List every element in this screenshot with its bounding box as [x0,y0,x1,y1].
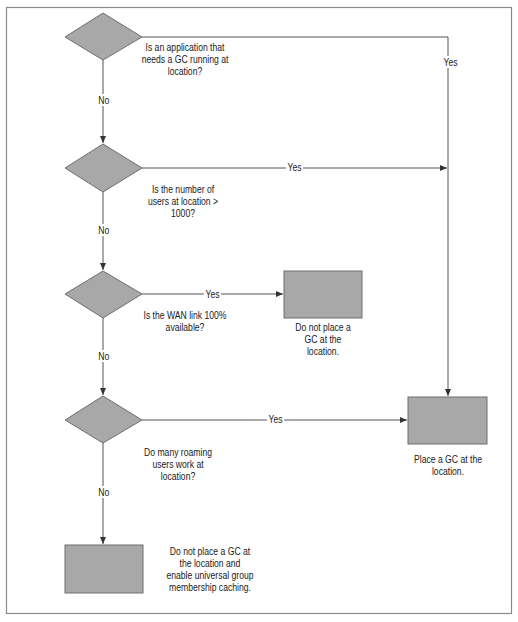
outcome-box-place-gc [408,397,487,444]
question-line: location? [137,470,219,482]
decision-3-question: Is the WAN link 100% available? [140,309,230,333]
question-line: location? [140,65,230,77]
diagram-frame [7,8,512,614]
outcome-no-gc-text: Do not place a GC at the location. [286,321,360,357]
decision-4-no-label: No [97,486,111,498]
outcome-line: the location and [165,557,255,569]
flowchart-canvas [0,0,518,622]
outcome-line: enable universal group [165,569,255,581]
decision-3-no-label: No [97,350,111,362]
outcome-box-caching [65,545,143,593]
outcome-line: membership caching. [165,581,255,593]
outcome-line: location. [407,465,489,477]
outcome-caching-text: Do not place a GC at the location and en… [165,545,255,593]
decision-1-no-label: No [97,94,111,106]
question-line: Is the WAN link 100% [140,309,230,321]
outcome-line: Place a GC at the [407,453,489,465]
decision-4-yes-label: Yes [267,413,284,425]
outcome-line: GC at the [286,333,360,345]
decision-1-question: Is an application that needs a GC runnin… [140,41,230,77]
question-line: needs a GC running at [140,53,230,65]
outcome-line: Do not place a GC at [165,545,255,557]
question-line: users work at [137,458,219,470]
decision-2-question: Is the number of users at location > 100… [142,183,224,219]
question-line: 1000? [142,207,224,219]
question-line: users at location > [142,195,224,207]
outcome-line: location. [286,345,360,357]
outcome-place-gc-text: Place a GC at the location. [407,453,489,477]
decision-3-yes-label: Yes [204,288,221,300]
decision-4-question: Do many roaming users work at location? [137,446,219,482]
question-line: available? [140,321,230,333]
decision-1-yes-label: Yes [442,56,459,68]
outcome-line: Do not place a [286,321,360,333]
question-line: Is an application that [140,41,230,53]
outcome-box-no-gc [284,271,362,318]
decision-2-yes-label: Yes [286,161,303,173]
decision-2-no-label: No [97,224,111,236]
question-line: Is the number of [142,183,224,195]
question-line: Do many roaming [137,446,219,458]
